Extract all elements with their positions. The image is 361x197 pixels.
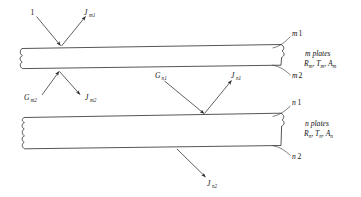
label-irradiation-n1-subscript: n1 (162, 75, 168, 81)
caption-upper-A-sub: m (333, 63, 337, 69)
upper-plate-shape (20, 45, 284, 69)
caption-upper-plate-title: m plates (305, 49, 331, 58)
label-radiosity-m1-symbol: J (84, 8, 88, 17)
label-surface-m2: m 2 (292, 71, 302, 80)
label-surface-n1-index: 1 (297, 98, 301, 107)
caption-lower-plate: n plates Rn, Tn, An (303, 119, 333, 140)
label-surface-n2-base: n (292, 152, 296, 161)
label-irradiation-m2: G m2 (24, 93, 37, 103)
label-incident-1: 1 (31, 8, 35, 17)
lower-plate-shape (22, 113, 284, 149)
arrow-incident-1 (37, 17, 61, 46)
caption-upper-plate: m plates Rm, Tm, Am (303, 49, 337, 70)
arrow-irradiation-m2 (42, 72, 59, 96)
label-surface-n2-index: 2 (297, 152, 301, 161)
arrow-irradiation-n1 (165, 81, 205, 114)
caption-upper-plate-props: Rm, Tm, Am (303, 59, 337, 69)
caption-lower-plate-title: n plates (305, 119, 329, 128)
label-irradiation-n1: G n1 (155, 71, 167, 81)
label-irradiation-m2-subscript: m2 (31, 97, 38, 103)
label-radiosity-n2-symbol: J (207, 179, 211, 188)
caption-lower-plate-props: Rn, Tn, An (303, 129, 333, 139)
label-surface-m1-base: m (292, 29, 298, 38)
arrow-radiosity-m1 (62, 17, 86, 47)
label-radiosity-n2: J n2 (207, 179, 218, 189)
label-surface-n1: n 1 (292, 98, 301, 107)
label-surface-n1-base: n (292, 98, 296, 107)
label-surface-m2-index: 2 (298, 71, 302, 80)
arrow-radiosity-m2 (60, 72, 81, 95)
label-radiosity-m2: J m2 (85, 93, 97, 103)
label-radiosity-m1: J m1 (84, 8, 96, 18)
arrow-radiosity-n1 (205, 81, 232, 114)
label-irradiation-n1-symbol: G (155, 71, 161, 80)
label-surface-m2-base: m (292, 71, 298, 80)
caption-upper-plate-symbol: m plates (305, 49, 331, 58)
label-radiosity-n2-subscript: n2 (212, 183, 218, 189)
label-radiosity-m2-subscript: m2 (90, 97, 97, 103)
radiation-plate-diagram: 1 J m1 G m2 J m2 G n1 J n1 J n2 m 1 m 2 … (0, 0, 361, 197)
arrow-radiosity-n2 (177, 149, 206, 177)
label-radiosity-n1: J n1 (231, 71, 242, 81)
label-irradiation-m2-symbol: G (24, 93, 30, 102)
label-radiosity-m2-symbol: J (85, 93, 89, 102)
leader-n2 (273, 146, 291, 156)
label-surface-m1: m 1 (292, 29, 302, 38)
caption-lower-A-sub: n (330, 133, 333, 139)
label-radiosity-n1-subscript: n1 (236, 75, 242, 81)
caption-lower-plate-symbol: n plates (305, 119, 329, 128)
label-surface-n2: n 2 (292, 152, 301, 161)
leader-m2 (273, 65, 291, 75)
label-surface-m1-index: 1 (298, 29, 302, 38)
label-radiosity-m1-subscript: m1 (89, 12, 96, 18)
label-radiosity-n1-symbol: J (231, 71, 235, 80)
